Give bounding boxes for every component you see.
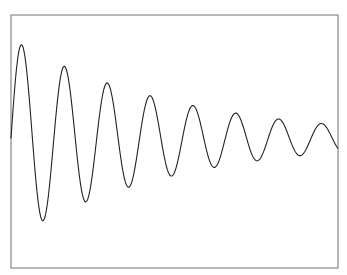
damped-oscillation-chart [0, 0, 347, 275]
plot-frame [11, 15, 338, 268]
chart-container [0, 0, 347, 275]
